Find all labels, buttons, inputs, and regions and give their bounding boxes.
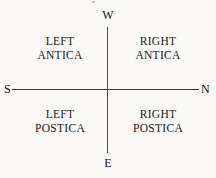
quadrant-label-left-antica: LEFT ANTICA	[22, 34, 98, 62]
quadrant-right-postica-line2: POSTICA	[118, 121, 198, 135]
quadrant-right-antica-line2: ANTICA	[118, 48, 198, 62]
quadrant-label-right-postica: RIGHT POSTICA	[118, 107, 198, 135]
quadrant-left-antica-line2: ANTICA	[22, 48, 98, 62]
quadrant-right-antica-line1: RIGHT	[118, 34, 198, 48]
scan-speck	[92, 1, 95, 3]
horizontal-axis-line	[12, 89, 199, 90]
compass-label-west: W	[101, 9, 115, 21]
quadrant-diagram: W E S N LEFT ANTICA RIGHT ANTICA LEFT PO…	[0, 0, 216, 178]
quadrant-label-left-postica: LEFT POSTICA	[22, 107, 98, 135]
quadrant-left-antica-line1: LEFT	[22, 34, 98, 48]
quadrant-left-postica-line2: POSTICA	[22, 121, 98, 135]
quadrant-left-postica-line1: LEFT	[22, 107, 98, 121]
quadrant-label-right-antica: RIGHT ANTICA	[118, 34, 198, 62]
compass-label-east: E	[101, 157, 115, 169]
compass-label-north: N	[199, 83, 212, 95]
quadrant-right-postica-line1: RIGHT	[118, 107, 198, 121]
vertical-axis-line	[107, 27, 108, 153]
compass-label-south: S	[2, 83, 13, 95]
